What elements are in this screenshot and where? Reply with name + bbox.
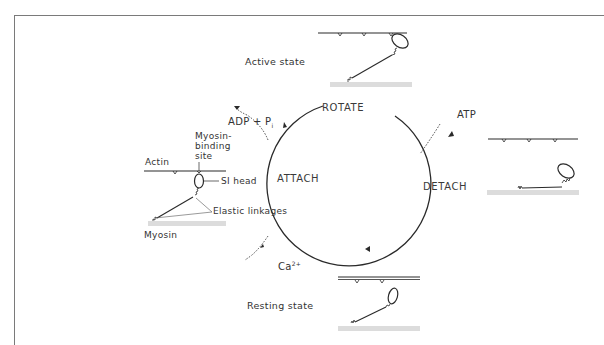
elastic-leader-2 bbox=[155, 212, 212, 218]
s1-head-shape bbox=[387, 287, 400, 305]
resting-state-illustration bbox=[338, 277, 420, 331]
active-state-illustration bbox=[318, 31, 412, 87]
myosin-binding-site-line2: binding bbox=[195, 141, 231, 151]
atp-label: ATP bbox=[457, 110, 476, 120]
stage-attach-label: ATTACH bbox=[277, 174, 319, 184]
myosin-binding-site-line1: Myosin- bbox=[195, 131, 232, 141]
myosin-filament bbox=[487, 190, 579, 195]
detached-state-illustration bbox=[487, 139, 579, 195]
pi-subscript: i bbox=[271, 122, 273, 129]
s1-head-shape bbox=[555, 161, 577, 181]
resting-state-label: Resting state bbox=[247, 301, 313, 311]
adp-pi-main-text: ADP + P bbox=[228, 116, 271, 127]
cycle-arrowhead-rotate bbox=[283, 122, 287, 128]
s1-head-label: SI head bbox=[221, 176, 257, 186]
myosin-filament bbox=[338, 326, 420, 331]
cycle-circle bbox=[267, 106, 431, 266]
calcium-label: Ca2+ bbox=[278, 259, 301, 272]
myosin-filament bbox=[330, 82, 412, 87]
elastic-linkages-label: Elastic linkages bbox=[213, 206, 287, 216]
calcium-main-text: Ca bbox=[278, 261, 292, 272]
calcium-input-arrow bbox=[245, 236, 268, 260]
actin-label: Actin bbox=[145, 157, 169, 167]
myosin-label: Myosin bbox=[144, 230, 177, 240]
cycle-arrowhead-bottom bbox=[365, 246, 370, 252]
elastic-leader-1 bbox=[196, 198, 212, 212]
myosin-filament bbox=[148, 221, 226, 226]
myosin-binding-site-line3: site bbox=[195, 151, 212, 161]
calcium-superscript: 2+ bbox=[292, 260, 301, 267]
active-state-label: Active state bbox=[245, 57, 305, 67]
s1-head-shape bbox=[195, 174, 204, 188]
atp-input-arrow bbox=[420, 124, 454, 154]
attached-state-illustration bbox=[144, 162, 226, 226]
adp-pi-label: ADP + Pi bbox=[228, 117, 273, 131]
stage-detach-label: DETACH bbox=[423, 182, 467, 192]
stage-rotate-label: ROTATE bbox=[322, 103, 364, 113]
